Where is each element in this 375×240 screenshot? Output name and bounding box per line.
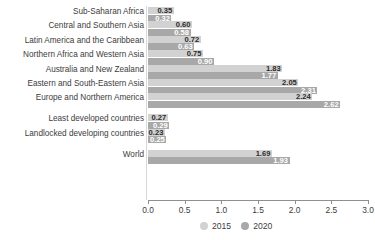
x-axis-tick-label: 0.0 [142,205,154,215]
legend-label-2020: 2020 [253,222,272,231]
bar-value-label: 1.69 [256,150,272,157]
category-label: Sub-Saharan Africa [73,8,144,16]
category-label: Latin America and the Caribbean [25,37,144,45]
bar-group: 0.350.32 [148,7,368,21]
horizontal-bar-chart: Sub-Saharan AfricaCentral and Southern A… [0,0,375,240]
legend-label-2015: 2015 [212,222,231,231]
legend-swatch-2020 [241,222,249,230]
x-axis-tick [148,200,149,204]
x-axis-tick [258,200,259,204]
x-axis-tick-label: 1.5 [252,205,264,215]
x-axis-tick [331,200,332,204]
category-axis-labels: Sub-Saharan AfricaCentral and Southern A… [0,6,144,200]
bar-group: 2.242.62 [148,93,368,107]
bar-2015[interactable] [148,150,272,157]
bar-2015[interactable] [148,79,298,86]
category-label: Eastern and South-Eastern Asia [27,80,144,88]
category-label: Europe and Northern America [36,94,144,102]
category-label: Northern Africa and Western Asia [23,51,144,59]
x-axis-tick-label: 1.0 [216,205,228,215]
category-label: World [123,151,144,159]
category-axis-spine [146,6,147,200]
bar-group: 0.230.25 [148,129,368,143]
category-label: Landlocked developing countries [25,130,144,138]
x-axis-tick-label: 0.5 [179,205,191,215]
x-axis-tick [368,200,369,204]
bar-group: 0.600.58 [148,21,368,35]
bar-2015[interactable] [148,93,312,100]
bar-value-label: 2.24 [296,93,312,100]
bar-2020[interactable] [148,157,290,164]
x-axis-tick [185,200,186,204]
bar-value-label: 2.62 [324,101,340,108]
legend-item-2020[interactable]: 2020 [241,222,272,231]
category-label: Central and Southern Asia [48,22,144,30]
category-label: Australia and New Zealand [46,66,144,74]
legend-item-2015[interactable]: 2015 [200,222,231,231]
bar-group: 0.270.29 [148,114,368,128]
bar-group: 1.691.93 [148,150,368,164]
bar-value-label: 2.05 [282,79,298,86]
x-axis-tick [221,200,222,204]
x-axis-tick-label: 2.0 [289,205,301,215]
bar-group: 1.831.77 [148,65,368,79]
x-axis-tick [295,200,296,204]
x-axis-tick-label: 3.0 [362,205,374,215]
x-axis-tick-label: 2.5 [326,205,338,215]
category-label: Least developed countries [48,115,144,123]
bar-value-label: 1.93 [273,157,289,164]
chart-legend: 2015 2020 [200,222,272,231]
bar-2020[interactable] [148,101,340,108]
legend-swatch-2015 [200,222,208,230]
bar-group: 0.720.63 [148,36,368,50]
bar-group: 2.052.31 [148,79,368,93]
bar-value-label: 0.25 [150,136,166,143]
plot-area: 0.350.320.600.580.720.630.750.901.831.77… [148,6,368,200]
bar-group: 0.750.90 [148,50,368,64]
